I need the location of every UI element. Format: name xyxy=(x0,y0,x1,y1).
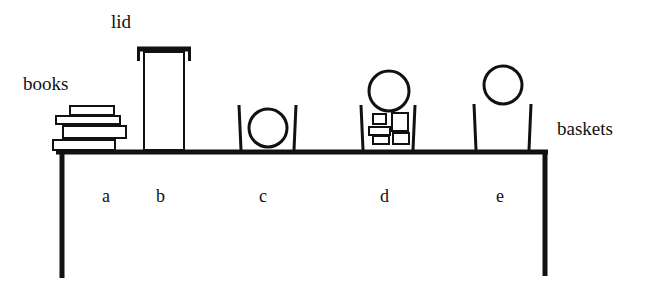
ball-icon xyxy=(249,109,287,147)
table-diagram: lid books baskets a b c d e xyxy=(0,0,654,296)
position-label-b: b xyxy=(156,186,165,206)
lid-label: lid xyxy=(111,11,132,32)
blocks xyxy=(369,113,409,144)
ball-icon xyxy=(369,71,409,111)
baskets-label: baskets xyxy=(557,118,613,139)
books-stack xyxy=(53,106,126,150)
position-label-e: e xyxy=(496,186,504,206)
basket-c xyxy=(239,105,296,150)
books-label: books xyxy=(23,73,68,94)
table xyxy=(56,150,548,278)
position-label-d: d xyxy=(380,186,389,206)
basket-d xyxy=(361,71,415,150)
position-label-c: c xyxy=(259,186,267,206)
position-label-a: a xyxy=(102,186,110,206)
ball-icon xyxy=(484,66,522,104)
basket-e xyxy=(474,66,531,150)
lidded-container xyxy=(137,48,191,150)
